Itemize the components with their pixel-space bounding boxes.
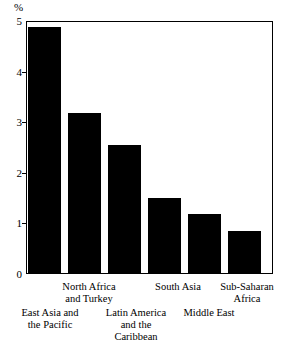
bar-chart: % 5 4 3 2 1 0 East Asia and the Pacific … — [0, 0, 285, 343]
y-tick-label-1: 1 — [2, 218, 22, 229]
cat-label-line: East Asia and — [0, 307, 100, 319]
bar-middle-east — [188, 214, 221, 274]
bar-latin-america-and-the-caribbean — [108, 145, 141, 274]
cat-label-line: Sub-Saharan — [209, 281, 285, 293]
cat-label-line: and the — [88, 319, 184, 331]
cat-label-line: Caribbean — [88, 331, 184, 343]
cat-label-line: and Turkey — [41, 293, 137, 305]
cat-label-line: Africa — [209, 293, 285, 305]
bar-north-africa-and-turkey — [68, 113, 101, 274]
y-tick-label-2: 2 — [2, 168, 22, 179]
cat-label-line: North Africa — [41, 281, 137, 293]
plot-area — [27, 22, 272, 274]
bar-east-asia-and-the-pacific — [28, 27, 61, 274]
cat-label-east-asia-and-the-pacific: East Asia and the Pacific — [0, 307, 100, 331]
y-tick-label-4: 4 — [2, 67, 22, 78]
y-tick-label-5: 5 — [2, 16, 22, 27]
bar-sub-saharan-africa — [228, 231, 261, 274]
cat-label-south-asia: South Asia — [136, 281, 220, 293]
cat-label-line: the Pacific — [0, 319, 100, 331]
cat-label-line: South Asia — [136, 281, 220, 293]
y-axis-unit-label: % — [14, 2, 23, 13]
bar-south-asia — [148, 198, 181, 274]
y-tick-label-0: 0 — [2, 269, 22, 280]
cat-label-sub-saharan-africa: Sub-Saharan Africa — [209, 281, 285, 305]
cat-label-north-africa-and-turkey: North Africa and Turkey — [41, 281, 137, 305]
cat-label-middle-east: Middle East — [167, 307, 251, 319]
cat-label-line: Middle East — [167, 307, 251, 319]
y-tick-label-3: 3 — [2, 117, 22, 128]
